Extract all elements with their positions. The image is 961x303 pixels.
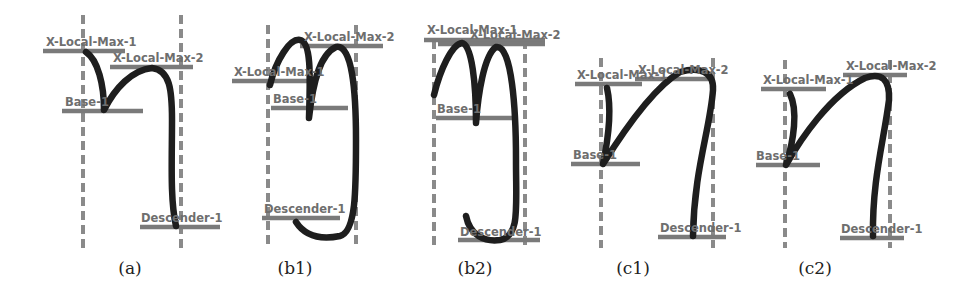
label-descender: Descender-1 [264, 202, 345, 216]
panel-c2: X-Local-Max-1 X-Local-Max-2 Base-1 Desce… [756, 59, 937, 278]
panel-a: X-Local-Max-1 X-Local-Max-2 Base-1 Desce… [43, 15, 222, 278]
label-base: Base-1 [756, 149, 800, 163]
label-descender: Descender-1 [460, 225, 541, 239]
caption-b1: (b1) [278, 258, 313, 278]
label-x-local-max-2: X-Local-Max-2 [846, 59, 937, 73]
label-descender: Descender-1 [660, 221, 741, 235]
label-x-local-max-1: X-Local-Max-1 [763, 73, 854, 87]
label-x-local-max-2: X-Local-Max-2 [470, 28, 561, 42]
handwritten-stroke [86, 52, 176, 226]
panel-c1: X-Local-Max-1 X-Local-Max-2 Base-1 Desce… [571, 58, 741, 278]
handwriting-landmark-figure: X-Local-Max-1 X-Local-Max-2 Base-1 Desce… [0, 0, 961, 303]
caption-c2: (c2) [798, 258, 832, 278]
panel-b1: X-Local-Max-1 X-Local-Max-2 Base-1 Desce… [232, 25, 395, 278]
label-x-local-max-2: X-Local-Max-2 [113, 51, 204, 65]
label-x-local-max-1: X-Local-Max-1 [46, 35, 137, 49]
caption-a: (a) [118, 258, 141, 278]
caption-c1: (c1) [616, 258, 650, 278]
caption-b2: (b2) [458, 258, 493, 278]
label-base: Base-1 [437, 102, 481, 116]
label-x-local-max-1: X-Local-Max-1 [234, 65, 325, 79]
label-x-local-max-2: X-Local-Max-2 [304, 30, 395, 44]
handwritten-stroke [786, 76, 889, 236]
label-base: Base-1 [65, 95, 109, 109]
handwritten-stroke [603, 70, 713, 236]
handwritten-stroke [434, 43, 516, 240]
panel-b2: X-Local-Max-1 X-Local-Max-2 Base-1 Desce… [424, 23, 561, 278]
label-x-local-max-2: X-Local-Max-2 [638, 63, 729, 77]
label-descender: Descender-1 [141, 211, 222, 225]
label-base: Base-1 [273, 92, 317, 106]
label-base: Base-1 [573, 148, 617, 162]
label-descender: Descender-1 [841, 222, 922, 236]
